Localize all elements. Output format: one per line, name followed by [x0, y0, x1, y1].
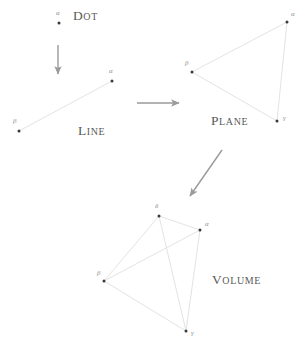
vertex-plane-alpha	[286, 21, 289, 24]
edge-volume-delta-alpha	[159, 216, 200, 230]
stage-label-plane-rest: LANE	[219, 116, 248, 127]
edge-volume-delta-beta	[104, 216, 159, 281]
vertex-line-alpha	[111, 80, 114, 83]
diagram-canvas: DOT LINE PLANE VOLUME αβαβαγδαβγ	[0, 0, 303, 348]
vertex-label-dot-alpha: α	[56, 10, 60, 17]
vertex-label-plane-beta: β	[185, 60, 189, 67]
stage-label-volume: VOLUME	[212, 273, 261, 287]
vertex-label-plane-gamma: γ	[283, 115, 286, 122]
vertex-label-volume-beta: β	[97, 270, 101, 277]
stage-label-dot-rest: OT	[83, 11, 98, 22]
arrow-plane-to-volume	[190, 150, 222, 196]
stage-label-plane: PLANE	[211, 114, 248, 128]
stage-label-plane-initial: P	[211, 113, 219, 128]
edge-volume-beta-gamma	[104, 281, 186, 331]
stage-label-volume-rest: OLUME	[222, 275, 261, 286]
stage-label-dot: DOT	[73, 9, 98, 23]
vertex-label-volume-delta: δ	[155, 203, 158, 210]
vertex-volume-beta	[103, 280, 106, 283]
vertex-label-line-beta: β	[13, 118, 17, 125]
vertex-volume-alpha	[199, 229, 202, 232]
vertex-dot-alpha	[58, 22, 61, 25]
stage-label-line-initial: L	[78, 123, 87, 138]
edge-plane-beta-alpha	[192, 22, 287, 72]
vertex-volume-delta	[158, 215, 161, 218]
stage-label-line: LINE	[78, 124, 105, 138]
stage-label-dot-initial: D	[73, 8, 83, 23]
vertex-volume-gamma	[185, 330, 188, 333]
vertex-label-plane-alpha: α	[291, 11, 295, 18]
edge-volume-alpha-gamma	[186, 230, 200, 331]
geometry-figure	[0, 0, 303, 348]
vertex-plane-gamma	[276, 120, 279, 123]
vertex-label-volume-alpha: α	[205, 221, 209, 228]
arrows-layer	[58, 45, 222, 196]
vertex-label-line-alpha: α	[109, 68, 113, 75]
vertex-line-beta	[18, 130, 21, 133]
stage-label-line-rest: INE	[87, 126, 105, 137]
edge-volume-beta-alpha	[104, 230, 200, 281]
vertex-plane-beta	[191, 71, 194, 74]
edge-volume-delta-gamma	[159, 216, 186, 331]
edge-plane-alpha-gamma	[277, 22, 287, 121]
vertex-label-volume-gamma: γ	[191, 330, 194, 337]
stage-label-volume-initial: V	[212, 272, 222, 287]
